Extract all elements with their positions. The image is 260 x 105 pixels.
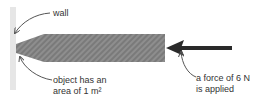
object-label-line2: area of 1 m²: [53, 86, 102, 96]
force-leader: [181, 52, 196, 77]
wall-label: wall: [53, 8, 69, 18]
object-label-line1: object has an: [53, 75, 107, 85]
wall: [10, 7, 16, 90]
force-label-line1: a force of 6 N: [196, 73, 250, 83]
object: [16, 34, 165, 62]
force-label-line2: is applied: [196, 84, 234, 94]
wall-leader: [15, 13, 50, 33]
